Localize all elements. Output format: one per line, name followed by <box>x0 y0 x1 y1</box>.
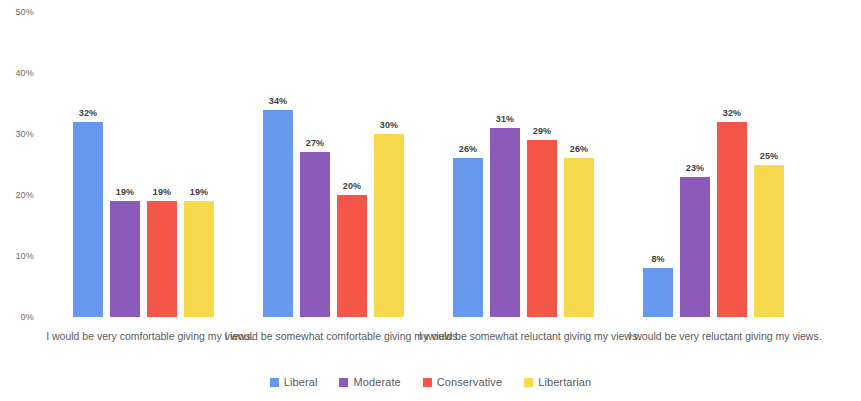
chart-legend: LiberalModerateConservativeLibertarian <box>0 376 861 388</box>
bar-libertarian[interactable] <box>374 134 404 317</box>
bar-slot: 31% <box>490 0 520 317</box>
bar-libertarian[interactable] <box>564 158 594 317</box>
bar-liberal[interactable] <box>453 158 483 317</box>
category-label: I would be very reluctant giving my view… <box>600 328 850 344</box>
bar-value-label: 34% <box>269 96 287 106</box>
bars-row: 34%27%20%30% <box>263 0 404 317</box>
bar-slot: 20% <box>337 0 367 317</box>
y-axis: 50%40%30%20%10%0% <box>0 0 40 322</box>
y-axis-tick-label: 20% <box>15 190 34 200</box>
legend-label: Libertarian <box>538 376 591 388</box>
bar-slot: 23% <box>680 0 710 317</box>
bar-value-label: 23% <box>686 163 704 173</box>
bar-slot: 19% <box>110 0 140 317</box>
bar-slot: 26% <box>564 0 594 317</box>
legend-swatch-icon <box>339 378 348 387</box>
bar-value-label: 8% <box>651 254 664 264</box>
bar-slot: 19% <box>147 0 177 317</box>
legend-item-conservative[interactable]: Conservative <box>423 376 502 388</box>
bar-libertarian[interactable] <box>754 165 784 318</box>
bars-row: 8%23%32%25% <box>643 0 784 317</box>
bars-row: 26%31%29%26% <box>453 0 594 317</box>
bar-value-label: 32% <box>79 108 97 118</box>
bar-moderate[interactable] <box>300 152 330 317</box>
bar-value-label: 26% <box>459 144 477 154</box>
bar-value-label: 27% <box>306 138 324 148</box>
bar-group: 26%31%29%26% <box>453 0 609 317</box>
y-axis-tick-label: 0% <box>21 312 34 322</box>
legend-swatch-icon <box>423 378 432 387</box>
bar-slot: 32% <box>717 0 747 317</box>
bar-value-label: 26% <box>570 144 588 154</box>
bar-slot: 27% <box>300 0 330 317</box>
bar-moderate[interactable] <box>490 128 520 317</box>
bar-conservative[interactable] <box>527 140 557 317</box>
bar-conservative[interactable] <box>717 122 747 317</box>
legend-item-moderate[interactable]: Moderate <box>339 376 400 388</box>
bar-value-label: 29% <box>533 126 551 136</box>
legend-item-libertarian[interactable]: Libertarian <box>524 376 591 388</box>
plot-area: 50%40%30%20%10%0% 32%19%19%19%34%27%20%3… <box>0 0 861 322</box>
bars-row: 32%19%19%19% <box>73 0 214 317</box>
bar-value-label: 25% <box>760 151 778 161</box>
bar-slot: 8% <box>643 0 673 317</box>
bar-slot: 34% <box>263 0 293 317</box>
bar-value-label: 19% <box>116 187 134 197</box>
bar-libertarian[interactable] <box>184 201 214 317</box>
category-axis-labels: I would be very comfortable giving my vi… <box>40 328 861 370</box>
bar-liberal[interactable] <box>643 268 673 317</box>
legend-swatch-icon <box>524 378 533 387</box>
bar-slot: 19% <box>184 0 214 317</box>
bar-liberal[interactable] <box>73 122 103 317</box>
y-axis-tick-label: 30% <box>15 129 34 139</box>
bar-liberal[interactable] <box>263 110 293 317</box>
legend-item-liberal[interactable]: Liberal <box>270 376 318 388</box>
grouped-bar-chart: 50%40%30%20%10%0% 32%19%19%19%34%27%20%3… <box>0 0 861 401</box>
y-axis-tick-label: 40% <box>15 68 34 78</box>
bar-groups-container: 32%19%19%19%34%27%20%30%26%31%29%26%8%23… <box>40 0 861 322</box>
bar-value-label: 20% <box>343 181 361 191</box>
bar-value-label: 19% <box>153 187 171 197</box>
bar-slot: 29% <box>527 0 557 317</box>
bar-slot: 32% <box>73 0 103 317</box>
bar-slot: 30% <box>374 0 404 317</box>
bar-value-label: 32% <box>723 108 741 118</box>
bar-value-label: 30% <box>380 120 398 130</box>
bar-value-label: 19% <box>190 187 208 197</box>
bar-group: 8%23%32%25% <box>643 0 799 317</box>
bar-slot: 26% <box>453 0 483 317</box>
y-axis-tick-label: 50% <box>15 7 34 17</box>
y-axis-tick-label: 10% <box>15 251 34 261</box>
legend-label: Liberal <box>284 376 318 388</box>
bar-moderate[interactable] <box>110 201 140 317</box>
legend-label: Conservative <box>437 376 502 388</box>
legend-swatch-icon <box>270 378 279 387</box>
bar-moderate[interactable] <box>680 177 710 317</box>
bar-slot: 25% <box>754 0 784 317</box>
bar-conservative[interactable] <box>147 201 177 317</box>
bar-value-label: 31% <box>496 114 514 124</box>
bar-group: 34%27%20%30% <box>263 0 419 317</box>
legend-label: Moderate <box>353 376 400 388</box>
bar-group: 32%19%19%19% <box>73 0 229 317</box>
bar-conservative[interactable] <box>337 195 367 317</box>
